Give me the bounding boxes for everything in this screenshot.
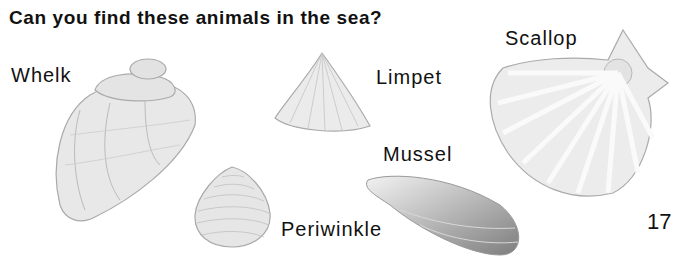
page-title: Can you find these animals in the sea? xyxy=(9,7,382,29)
mussel-label: Mussel xyxy=(383,143,452,166)
mussel-shell-illustration xyxy=(360,170,530,260)
periwinkle-shell-illustration xyxy=(192,165,274,250)
limpet-label: Limpet xyxy=(376,66,442,89)
limpet-shell-illustration xyxy=(270,48,375,138)
periwinkle-label: Periwinkle xyxy=(281,218,382,241)
page-number: 17 xyxy=(647,209,671,235)
whelk-shell-illustration xyxy=(50,55,200,230)
